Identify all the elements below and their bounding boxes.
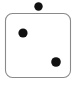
- dot-lower-right-icon: [51, 57, 61, 67]
- dot-diagram-svg: [0, 0, 78, 85]
- dot-upper-left-icon: [18, 28, 27, 37]
- rounded-rectangle-shape: [6, 14, 71, 78]
- figure-container: [0, 0, 78, 85]
- dot-outside-top-icon: [34, 2, 42, 10]
